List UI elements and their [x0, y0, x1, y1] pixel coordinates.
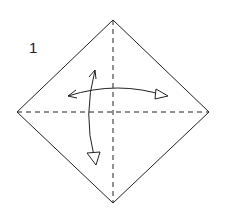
- horizontal-fold-arrow-icon: [68, 88, 168, 99]
- origami-diagram: [0, 0, 226, 211]
- vertical-fold-arrow-icon: [87, 70, 100, 165]
